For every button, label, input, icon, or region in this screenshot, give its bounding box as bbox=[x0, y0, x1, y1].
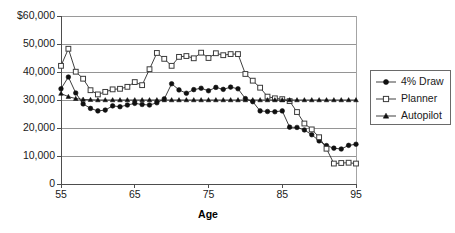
series-line bbox=[61, 49, 356, 164]
legend-label: 4% Draw bbox=[401, 75, 444, 87]
data-point-square-icon bbox=[236, 52, 241, 57]
data-point-circle-icon bbox=[354, 142, 359, 147]
data-point-circle-icon bbox=[228, 85, 233, 90]
data-point-square-icon bbox=[184, 54, 189, 59]
data-point-circle-icon bbox=[88, 106, 93, 111]
data-point-circle-icon bbox=[73, 91, 78, 96]
data-point-circle-icon bbox=[125, 103, 130, 108]
y-tick-labels-group: 010,00020,00030,00040,00050,000$60,000 bbox=[17, 9, 61, 189]
series-line bbox=[61, 77, 356, 149]
data-point-square-icon bbox=[302, 121, 307, 126]
data-point-circle-icon bbox=[339, 147, 344, 152]
data-point-circle-icon bbox=[302, 128, 307, 133]
y-tick-label: 0 bbox=[49, 177, 55, 189]
data-point-square-icon bbox=[324, 146, 329, 151]
series-group bbox=[59, 46, 359, 166]
data-point-square-icon bbox=[339, 161, 344, 166]
data-point-square-icon bbox=[81, 76, 86, 81]
data-point-square-icon bbox=[88, 88, 93, 93]
data-point-circle-icon bbox=[273, 109, 278, 114]
data-point-circle-icon bbox=[191, 87, 196, 92]
data-point-circle-icon bbox=[96, 109, 101, 114]
x-tick-label: 75 bbox=[203, 188, 215, 200]
y-tick-label: 40,000 bbox=[23, 65, 55, 77]
line-chart: 010,00020,00030,00040,00050,000$60,000 5… bbox=[0, 0, 455, 233]
data-point-square-icon bbox=[103, 89, 108, 94]
y-tick-label: 50,000 bbox=[23, 37, 55, 49]
data-point-circle-icon bbox=[118, 104, 123, 109]
data-point-circle-icon bbox=[59, 87, 64, 92]
x-tick-labels-group: 5565758595 bbox=[55, 184, 362, 200]
data-point-square-icon bbox=[169, 63, 174, 68]
y-tick-label: 10,000 bbox=[23, 149, 55, 161]
data-point-square-icon bbox=[125, 84, 130, 89]
data-point-circle-icon bbox=[287, 125, 292, 130]
data-point-circle-icon bbox=[199, 86, 204, 91]
data-point-square-icon bbox=[110, 87, 115, 92]
data-point-square-icon bbox=[162, 56, 167, 61]
data-point-circle-icon bbox=[81, 102, 86, 107]
data-point-square-icon bbox=[346, 160, 351, 165]
data-point-square-icon bbox=[331, 161, 336, 166]
data-point-square-icon bbox=[140, 83, 145, 88]
data-point-circle-icon bbox=[346, 143, 351, 148]
data-point-square-icon bbox=[309, 127, 314, 132]
data-point-circle-icon bbox=[66, 75, 71, 80]
y-tick-label: 30,000 bbox=[23, 93, 55, 105]
data-point-circle-icon bbox=[258, 109, 263, 114]
data-point-circle-icon bbox=[103, 108, 108, 113]
data-point-circle-icon bbox=[169, 81, 174, 86]
data-point-square-icon bbox=[250, 78, 255, 83]
data-point-square-icon bbox=[221, 53, 226, 58]
data-point-circle-icon bbox=[236, 87, 241, 92]
data-point-circle-icon bbox=[280, 109, 285, 114]
data-point-square-icon bbox=[132, 80, 137, 85]
data-point-square-icon bbox=[206, 56, 211, 61]
data-point-circle-icon bbox=[147, 103, 152, 108]
chart-container: 010,00020,00030,00040,00050,000$60,000 5… bbox=[0, 0, 455, 233]
data-point-square-icon bbox=[383, 96, 388, 101]
data-point-circle-icon bbox=[140, 102, 145, 107]
x-tick-label: 85 bbox=[276, 188, 288, 200]
series-planner bbox=[59, 46, 359, 166]
data-point-square-icon bbox=[66, 46, 71, 51]
data-point-square-icon bbox=[213, 51, 218, 56]
data-point-square-icon bbox=[73, 69, 78, 74]
data-point-square-icon bbox=[354, 161, 359, 166]
data-point-square-icon bbox=[295, 110, 300, 115]
data-point-circle-icon bbox=[184, 91, 189, 96]
y-tick-label: $60,000 bbox=[17, 9, 55, 21]
data-point-square-icon bbox=[59, 63, 64, 68]
data-point-square-icon bbox=[243, 72, 248, 77]
data-point-square-icon bbox=[228, 52, 233, 57]
data-point-circle-icon bbox=[206, 88, 211, 93]
data-point-circle-icon bbox=[295, 125, 300, 130]
data-point-circle-icon bbox=[177, 88, 182, 93]
legend-label: Planner bbox=[401, 92, 438, 104]
data-point-square-icon bbox=[317, 135, 322, 140]
legend: 4% DrawPlannerAutopilot bbox=[370, 70, 450, 124]
data-point-square-icon bbox=[191, 56, 196, 61]
data-point-square-icon bbox=[118, 86, 123, 91]
x-tick-label: 65 bbox=[129, 188, 141, 200]
data-point-circle-icon bbox=[110, 104, 115, 109]
data-point-square-icon bbox=[258, 85, 263, 90]
x-tick-label: 55 bbox=[55, 188, 67, 200]
data-point-square-icon bbox=[154, 51, 159, 56]
data-point-circle-icon bbox=[332, 146, 337, 151]
data-point-square-icon bbox=[177, 54, 182, 59]
legend-label: Autopilot bbox=[401, 109, 442, 121]
x-axis-title: Age bbox=[198, 208, 218, 220]
y-tick-label: 20,000 bbox=[23, 121, 55, 133]
data-point-square-icon bbox=[199, 50, 204, 55]
data-point-circle-icon bbox=[221, 87, 226, 92]
data-point-circle-icon bbox=[309, 132, 314, 137]
data-point-circle-icon bbox=[214, 85, 219, 90]
data-point-circle-icon bbox=[265, 109, 270, 114]
x-tick-label: 95 bbox=[350, 188, 362, 200]
data-point-circle-icon bbox=[384, 80, 389, 85]
series-4-draw bbox=[59, 75, 359, 152]
data-point-square-icon bbox=[147, 67, 152, 72]
data-point-square-icon bbox=[95, 92, 100, 97]
data-point-triangle-icon bbox=[59, 91, 64, 95]
